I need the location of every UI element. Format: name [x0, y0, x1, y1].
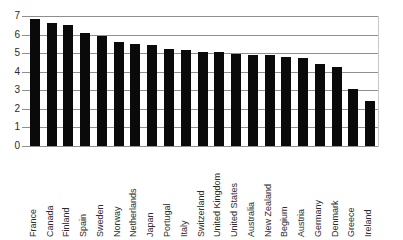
bar-chart: 01234567 FranceCanadaFinlandSpainSwedenN…	[0, 0, 403, 240]
x-axis: FranceCanadaFinlandSpainSwedenNorwayNeth…	[26, 149, 378, 239]
y-axis-tick-label: 1	[0, 122, 20, 132]
x-axis-tick-label: Begium	[280, 206, 289, 237]
bar	[147, 45, 157, 146]
bar	[63, 25, 73, 146]
bar	[130, 44, 140, 146]
bar	[332, 67, 342, 146]
x-axis-tick-label: New Zealand	[264, 184, 273, 237]
x-axis-tick-label: Greece	[347, 207, 356, 237]
y-axis-tick-label: 3	[0, 85, 20, 95]
bar	[348, 89, 358, 146]
plot-border-right	[378, 16, 379, 147]
bar	[248, 55, 258, 146]
bar	[365, 101, 375, 147]
x-axis-tick-label: Germany	[314, 200, 323, 237]
y-axis-tick-label: 0	[0, 141, 20, 151]
x-axis-tick-label: France	[29, 209, 38, 237]
y-axis-tick-label: 4	[0, 67, 20, 77]
bar	[97, 36, 107, 146]
bar	[298, 58, 308, 146]
bar	[47, 23, 57, 147]
x-axis-tick-label: Japan	[146, 212, 155, 237]
gridline-0	[26, 146, 378, 147]
bar	[114, 42, 124, 146]
x-axis-tick-label: Netherlands	[129, 188, 138, 237]
x-axis-tick-label: Spain	[79, 214, 88, 237]
x-axis-tick-label: Switzerland	[197, 190, 206, 237]
bar	[265, 55, 275, 146]
x-axis-tick-label: Italy	[180, 220, 189, 237]
bar-series	[26, 12, 378, 146]
x-axis-tick-label: Finland	[62, 207, 71, 237]
x-axis-tick-label: Denmark	[331, 200, 340, 237]
x-axis-tick-label: Sweden	[96, 204, 105, 237]
bar	[181, 50, 191, 146]
bar	[214, 52, 224, 146]
x-axis-tick-label: Norway	[113, 206, 122, 237]
x-axis-tick-label: United States	[230, 183, 239, 237]
bar	[231, 54, 241, 146]
x-axis-tick-label: United Kingdom	[213, 173, 222, 237]
y-axis-tick-label: 7	[0, 11, 20, 21]
bar	[198, 52, 208, 146]
bar	[30, 19, 40, 146]
bar	[315, 64, 325, 146]
x-axis-tick-label: Ireland	[364, 209, 373, 237]
bar	[164, 49, 174, 147]
bar	[80, 33, 90, 146]
x-axis-tick-label: Canada	[46, 205, 55, 237]
bar	[281, 57, 291, 146]
y-axis-tick-label: 2	[0, 104, 20, 114]
x-axis-tick-label: Australia	[247, 202, 256, 237]
x-axis-tick-label: Portugal	[163, 203, 172, 237]
y-axis-tick-label: 6	[0, 30, 20, 40]
y-axis: 01234567	[0, 0, 22, 240]
x-axis-tick-label: Austria	[297, 209, 306, 237]
y-axis-tick-label: 5	[0, 48, 20, 58]
